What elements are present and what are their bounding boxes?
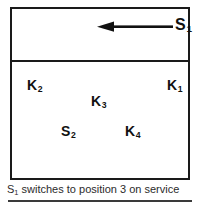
label-k1-base: K (167, 77, 177, 93)
label-k2-subscript: 2 (37, 84, 43, 94)
label-k2: K2 (27, 78, 43, 92)
label-k1: K1 (167, 78, 183, 92)
caption-subscript: 1 (14, 188, 18, 197)
label-k3: K3 (91, 94, 107, 108)
label-k3-base: K (91, 93, 101, 109)
label-s2: S2 (61, 124, 76, 138)
label-s2-subscript: 2 (71, 130, 77, 140)
label-k1-subscript: 1 (177, 84, 183, 94)
label-s2-base: S (61, 123, 71, 139)
label-k3-subscript: 3 (101, 100, 107, 110)
label-s1-subscript: 1 (186, 23, 192, 34)
diagram-frame: S1 K2 K1 K3 S2 K4 (10, 7, 190, 180)
diagram-caption: S1 switches to position 3 on service (7, 183, 197, 197)
bottom-divider (8, 200, 192, 202)
label-k2-base: K (27, 77, 37, 93)
label-s1-base: S (175, 16, 186, 33)
label-k4: K4 (125, 124, 141, 138)
label-k4-base: K (125, 123, 135, 139)
upper-compartment: S1 (12, 9, 188, 62)
arrow-left-icon (97, 20, 173, 34)
caption-text: switches to position 3 on service (19, 183, 180, 195)
label-s1: S1 (175, 17, 192, 33)
label-k4-subscript: 4 (135, 130, 141, 140)
